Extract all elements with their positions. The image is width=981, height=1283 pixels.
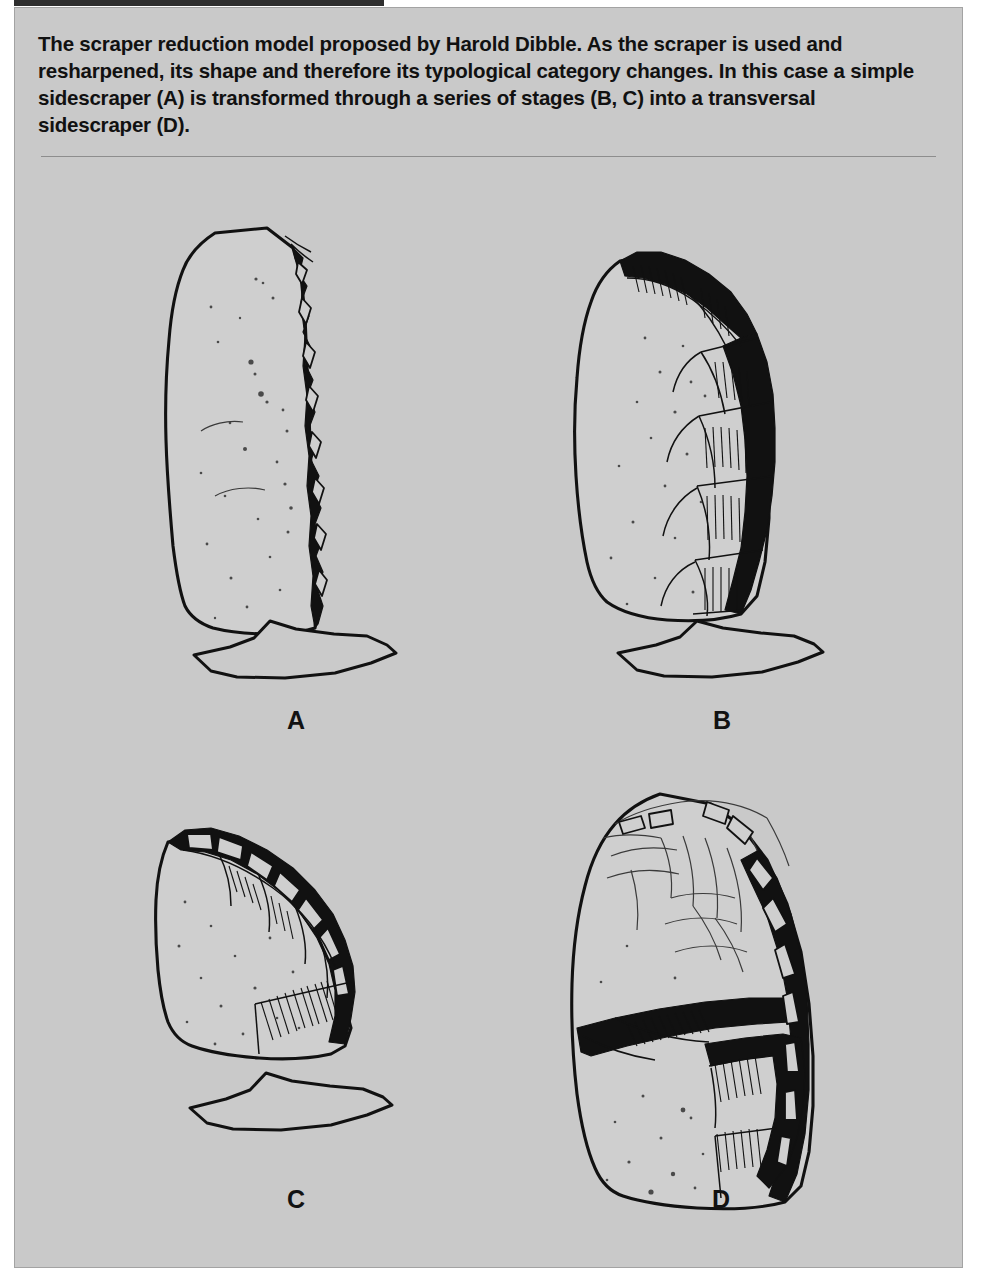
- specimen-d-label: D: [712, 1185, 730, 1213]
- specimen-b-cross-section: [618, 621, 823, 677]
- figure-plate: A: [15, 166, 962, 1266]
- specimen-c-label: C: [287, 1185, 305, 1213]
- caption-divider: [41, 156, 936, 157]
- figure-caption: The scraper reduction model proposed by …: [38, 30, 930, 138]
- specimen-b: B: [575, 252, 823, 734]
- figure-panel: The scraper reduction model proposed by …: [14, 7, 963, 1268]
- specimen-d: D: [572, 794, 813, 1213]
- figure-page: FIGURE 2.7 The scraper reduction model p…: [0, 0, 981, 1283]
- figure-heading-text: FIGURE 2.7: [14, 0, 384, 6]
- specimen-c: C: [156, 828, 392, 1213]
- specimen-b-label: B: [713, 706, 731, 734]
- specimen-a-outline: [166, 228, 317, 634]
- specimen-c-cross-section: [190, 1073, 392, 1130]
- specimen-a-label: A: [287, 706, 305, 734]
- figure-heading-sliver: FIGURE 2.7: [14, 0, 384, 6]
- specimen-a: A: [166, 228, 396, 734]
